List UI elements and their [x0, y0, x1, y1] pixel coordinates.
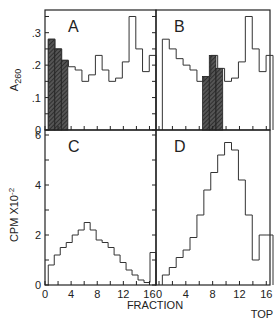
xlabel: FRACTION [127, 299, 183, 311]
step-series-D [162, 143, 273, 286]
ylabel-bottom: CPM X10-2 [7, 187, 20, 242]
shaded-bar-A-2 [55, 49, 62, 130]
x-tick-label-D: 4 [183, 288, 189, 300]
x-tick-label-C: 8 [94, 288, 100, 300]
y-tick-label-A: .2 [32, 59, 41, 71]
x-tick-label-D: 16 [260, 288, 272, 300]
top-label: TOP [251, 308, 273, 320]
panel-frame-C [45, 130, 156, 285]
y-tick-label-A: .1 [32, 92, 41, 104]
y-tick-label-C: 0 [35, 279, 41, 291]
y-tick-label-C: 2 [35, 229, 41, 241]
shaded-bar-A-3 [61, 60, 68, 130]
step-series-C [48, 223, 156, 286]
figure: A0.1.2.3BC02460481216D0481216 A260 CPM X… [0, 0, 280, 321]
panel-label-C: C [68, 138, 80, 155]
x-tick-label-C: 4 [68, 288, 74, 300]
shaded-bar-A-1 [48, 39, 55, 130]
panel-label-A: A [68, 18, 79, 35]
x-tick-label-D: 12 [233, 288, 245, 300]
panel-label-D: D [174, 138, 186, 155]
y-tick-label-C: 4 [35, 179, 41, 191]
x-tick-label-C: 0 [42, 288, 48, 300]
x-tick-label-D: 8 [210, 288, 216, 300]
y-tick-label-C: 6 [35, 129, 41, 141]
y-tick-label-A: .3 [32, 27, 41, 39]
shaded-bar-B-9 [216, 68, 223, 130]
ylabel-top: A260 [8, 69, 23, 91]
shaded-bar-B-7 [203, 76, 210, 130]
panel-label-B: B [174, 18, 185, 35]
